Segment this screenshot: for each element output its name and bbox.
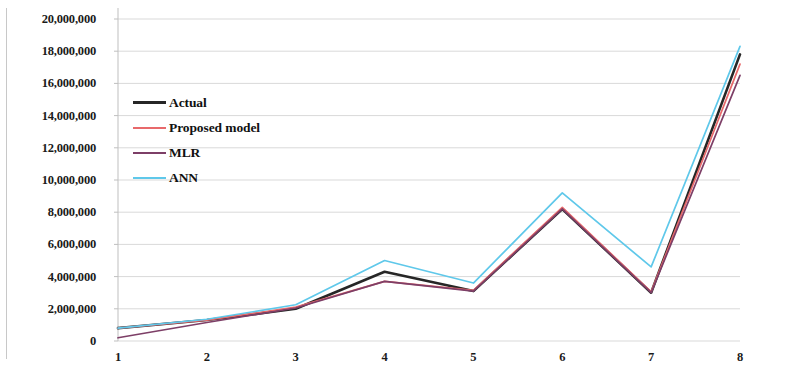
legend-item-ann: ANN xyxy=(133,165,323,190)
legend-item-actual: Actual xyxy=(133,90,323,115)
legend-label: ANN xyxy=(169,170,198,186)
x-axis-tick-label: 7 xyxy=(648,350,654,365)
x-axis-tick-label: 4 xyxy=(381,350,387,365)
legend-swatch-icon xyxy=(133,101,166,104)
legend-label: Proposed model xyxy=(169,120,260,136)
line-chart: 20,000,00018,000,00016,000,00014,000,000… xyxy=(0,0,799,367)
legend-item-proposed-model: Proposed model xyxy=(133,115,323,140)
legend-swatch-icon xyxy=(133,177,166,179)
legend-label: Actual xyxy=(169,95,207,111)
x-axis-tick-label: 8 xyxy=(737,350,743,365)
x-axis-tick-labels: 12345678 xyxy=(0,0,799,367)
x-axis-tick-label: 5 xyxy=(470,350,476,365)
x-axis-tick-label: 3 xyxy=(293,350,299,365)
legend-swatch-icon xyxy=(133,152,166,154)
x-axis-tick-label: 1 xyxy=(115,350,121,365)
x-axis-tick-label: 6 xyxy=(559,350,565,365)
chart-legend: ActualProposed modelMLRANN xyxy=(133,90,323,190)
legend-item-mlr: MLR xyxy=(133,140,323,165)
x-axis-tick-label: 2 xyxy=(204,350,210,365)
legend-label: MLR xyxy=(169,145,200,161)
legend-swatch-icon xyxy=(133,127,166,129)
